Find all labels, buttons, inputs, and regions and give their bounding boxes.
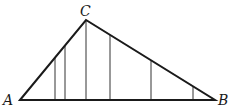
- label-c: C: [80, 3, 91, 19]
- label-b: B: [217, 92, 228, 108]
- label-a: A: [1, 92, 13, 108]
- triangle-diagram: A B C: [0, 0, 235, 112]
- triangle-abc: [20, 20, 215, 100]
